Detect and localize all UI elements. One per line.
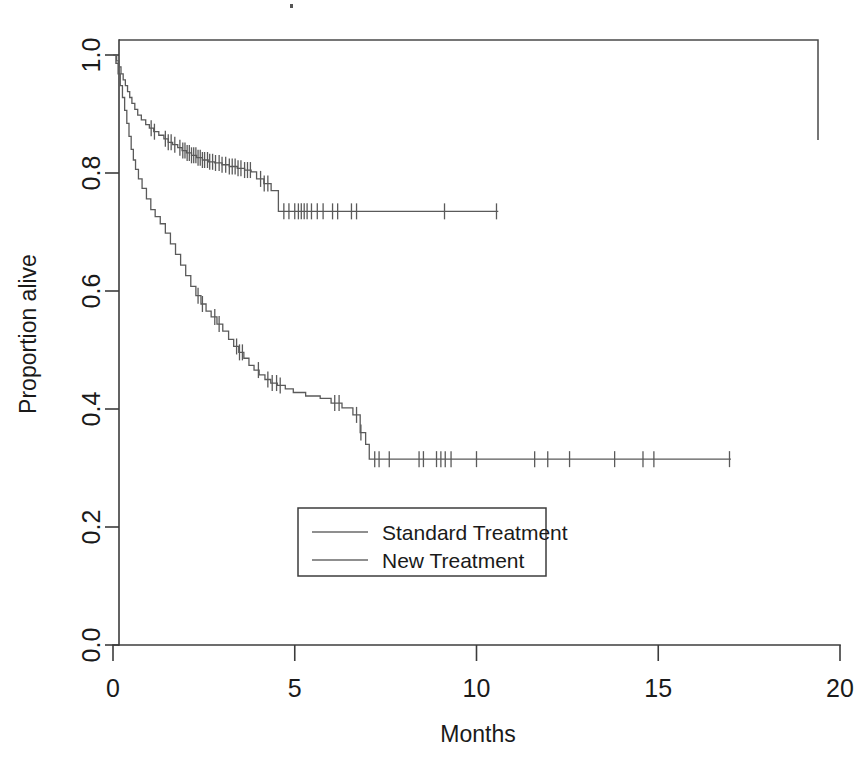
y-axis-title: Proportion alive — [15, 254, 41, 414]
chart-legend: Standard Treatment New Treatment — [298, 508, 568, 576]
y-tick-label-1.0: 1.0 — [77, 38, 105, 73]
y-axis-ticks: 0.00.20.40.60.81.0 — [77, 38, 119, 663]
x-tick-label-5: 5 — [288, 674, 302, 702]
legend-label-standard-treatment: Standard Treatment — [382, 521, 568, 544]
plot-frame — [119, 40, 818, 140]
x-axis-ticks: 05101520 — [106, 645, 854, 702]
survival-curves — [113, 55, 731, 459]
y-tick-label-0.2: 0.2 — [77, 510, 105, 545]
legend-label-new-treatment: New Treatment — [382, 549, 525, 572]
y-tick-label-0.0: 0.0 — [77, 628, 105, 663]
scan-artifact-speck — [290, 4, 293, 8]
survival-plot-figure: 0.00.20.40.60.81.0 05101520 Months Propo… — [0, 0, 860, 768]
x-tick-label-0: 0 — [106, 674, 120, 702]
censoring-marks — [151, 120, 729, 467]
y-tick-label-0.4: 0.4 — [77, 392, 105, 427]
x-tick-label-15: 15 — [644, 674, 672, 702]
y-tick-label-0.6: 0.6 — [77, 274, 105, 309]
kaplan-meier-chart: 0.00.20.40.60.81.0 05101520 Months Propo… — [0, 0, 860, 768]
x-tick-label-20: 20 — [826, 674, 854, 702]
y-tick-label-0.8: 0.8 — [77, 156, 105, 191]
x-tick-label-10: 10 — [463, 674, 491, 702]
x-axis-title: Months — [440, 721, 515, 747]
survival-curve-standard-treatment — [113, 55, 498, 211]
plot-frame-border — [119, 40, 818, 140]
survival-curve-new-treatment — [113, 55, 731, 459]
